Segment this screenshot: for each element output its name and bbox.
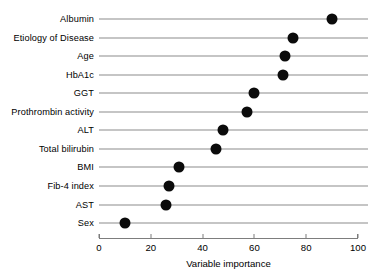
x-axis-tick: [306, 234, 307, 238]
x-axis-tick: [99, 234, 100, 238]
x-axis-tick-label: 100: [350, 242, 366, 253]
x-axis-tick-label: 40: [197, 242, 208, 253]
data-point-marker: [241, 106, 252, 117]
category-label: ALT: [78, 125, 94, 135]
row-connector-line: [99, 185, 368, 186]
data-point-marker: [327, 14, 338, 25]
x-axis-tick: [254, 234, 255, 238]
x-axis-title: Variable importance: [0, 258, 381, 269]
row-connector-line: [99, 111, 368, 112]
data-point-marker: [288, 32, 299, 43]
x-axis-tick-label: 80: [301, 242, 312, 253]
data-point-marker: [280, 51, 291, 62]
category-label: HbA1c: [66, 70, 94, 80]
x-axis-tick-label: 20: [145, 242, 156, 253]
x-axis-tick: [150, 234, 151, 238]
data-point-marker: [249, 88, 260, 99]
data-point-marker: [161, 199, 172, 210]
category-label: Sex: [78, 218, 94, 228]
category-label: Etiology of Disease: [13, 33, 94, 43]
variable-importance-dot-plot: AlbuminEtiology of DiseaseAgeHbA1cGGTPro…: [0, 0, 381, 278]
category-label: Albumin: [60, 14, 94, 24]
data-point-marker: [210, 143, 221, 154]
row-connector-line: [99, 148, 368, 149]
row-connector-line: [99, 56, 368, 57]
x-axis-tick-label: 0: [96, 242, 101, 253]
row-connector-line: [99, 93, 368, 94]
row-connector-line: [99, 223, 368, 224]
category-label: BMI: [77, 162, 94, 172]
category-label: GGT: [74, 88, 94, 98]
category-label: Fib-4 index: [47, 181, 94, 191]
row-connector-line: [99, 74, 368, 75]
category-label: Age: [77, 51, 94, 61]
x-axis-title-label: Variable importance: [186, 258, 271, 269]
x-axis-tick: [202, 234, 203, 238]
category-label: AST: [76, 200, 94, 210]
row-connector-line: [99, 37, 368, 38]
data-point-marker: [119, 218, 130, 229]
data-point-marker: [218, 125, 229, 136]
row-connector-line: [99, 130, 368, 131]
category-label: Total bilirubin: [39, 144, 94, 154]
row-connector-line: [99, 167, 368, 168]
data-point-marker: [174, 162, 185, 173]
x-axis-line: [99, 238, 358, 239]
x-axis-tick: [358, 234, 359, 238]
data-point-marker: [163, 180, 174, 191]
row-connector-line: [99, 204, 368, 205]
x-axis-tick-label: 60: [249, 242, 260, 253]
category-label: Prothrombin activity: [11, 107, 94, 117]
data-point-marker: [277, 69, 288, 80]
